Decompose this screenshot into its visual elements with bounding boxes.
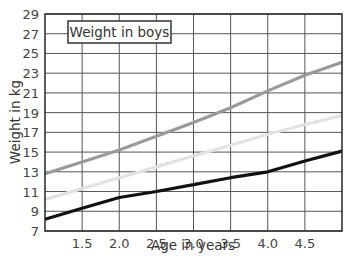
y-tick-label: 13 <box>22 165 39 180</box>
chart-title: Weight in boys <box>70 24 170 40</box>
weight-chart: 7911131517192123252729 1.52.02.53.03.54.… <box>0 0 349 272</box>
x-axis-label: Age in years <box>151 237 235 253</box>
y-tick-label: 25 <box>22 46 39 61</box>
y-tick-label: 9 <box>31 204 39 219</box>
y-tick-label: 23 <box>22 66 39 81</box>
x-tick-label: 1.5 <box>72 236 93 251</box>
y-tick-label: 29 <box>22 7 39 22</box>
x-tick-label: 4.0 <box>257 236 278 251</box>
x-tick-label: 2.0 <box>109 236 130 251</box>
chart-title-box: Weight in boys <box>68 21 171 43</box>
y-tick-label: 15 <box>22 145 39 160</box>
y-tick-label: 19 <box>22 106 39 121</box>
y-axis-label: Weight in kg <box>7 80 23 164</box>
x-tick-label: 4.5 <box>295 236 316 251</box>
y-tick-label: 21 <box>22 86 39 101</box>
y-tick-label: 27 <box>22 27 39 42</box>
y-tick-label: 11 <box>22 185 39 200</box>
y-tick-label: 17 <box>22 125 39 140</box>
y-axis-ticks: 7911131517192123252729 <box>22 7 39 239</box>
y-tick-label: 7 <box>31 224 39 239</box>
